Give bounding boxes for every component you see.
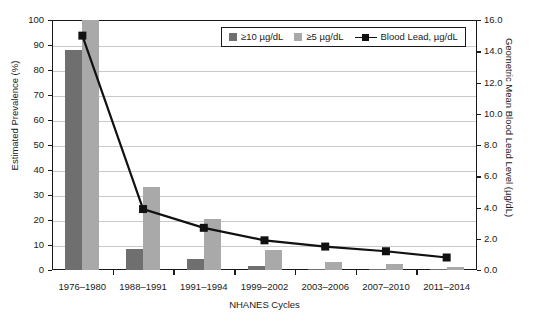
x-axis-tick-label: 2011–2014 xyxy=(416,281,478,292)
legend-label: Blood Lead, µg/dL xyxy=(381,32,458,42)
y-axis-left-tick-label: 30 xyxy=(18,190,44,200)
y-axis-right-tick-label: 6.0 xyxy=(484,171,514,181)
y-axis-right-tick-mark xyxy=(477,51,481,52)
x-axis-tick-label: 1991–1994 xyxy=(173,281,235,292)
chart-legend: ≥10 µg/dL ≥5 µg/dL Blood Lead, µg/dL xyxy=(221,27,466,47)
x-axis-tick-label: 1999–2002 xyxy=(234,281,296,292)
line-data-point-marker xyxy=(139,205,147,213)
y-axis-left-tick-label: 100 xyxy=(18,15,44,25)
x-axis-tick-mark xyxy=(234,270,235,275)
y-axis-right-tick-label: 0.0 xyxy=(484,265,514,275)
line-data-point-marker xyxy=(200,224,208,232)
y-axis-right-tick-label: 12.0 xyxy=(484,78,514,88)
y-axis-right-tick-mark xyxy=(477,239,481,240)
y-axis-left-tick-label: 0 xyxy=(18,265,44,275)
y-axis-left-tick-mark xyxy=(48,195,52,196)
y-axis-left-tick-mark xyxy=(48,95,52,96)
y-axis-left-tick-label: 60 xyxy=(18,115,44,125)
legend-label: ≥10 µg/dL xyxy=(241,32,283,42)
y-axis-right-tick-mark xyxy=(477,270,481,271)
y-axis-right-tick-mark xyxy=(477,20,481,21)
legend-item-ge10: ≥10 µg/dL xyxy=(229,32,283,42)
line-data-point-marker xyxy=(321,243,329,251)
legend-item-ge5: ≥5 µg/dL xyxy=(294,32,343,42)
y-axis-left-tick-label: 20 xyxy=(18,215,44,225)
line-square-marker-icon xyxy=(355,33,377,42)
x-axis-tick-label: 1976–1980 xyxy=(51,281,113,292)
blood-lead-line-series xyxy=(52,20,477,270)
y-axis-right-tick-label: 16.0 xyxy=(484,15,514,25)
y-axis-left-tick-mark xyxy=(48,170,52,171)
y-axis-right-tick-label: 14.0 xyxy=(484,46,514,56)
y-axis-left-tick-mark xyxy=(48,45,52,46)
y-axis-left-tick-label: 80 xyxy=(18,65,44,75)
legend-label: ≥5 µg/dL xyxy=(306,32,343,42)
x-axis-title: NHANES Cycles xyxy=(52,299,477,310)
y-axis-left-tick-mark xyxy=(48,245,52,246)
line-data-point-marker xyxy=(78,32,86,40)
y-axis-left-tick-mark xyxy=(48,70,52,71)
y-axis-right-tick-mark xyxy=(477,176,481,177)
x-axis-tick-mark xyxy=(113,270,114,275)
y-axis-right-tick-label: 8.0 xyxy=(484,140,514,150)
square-swatch-dark-icon xyxy=(229,33,237,41)
y-axis-left-tick-label: 70 xyxy=(18,90,44,100)
y-axis-left-tick-mark xyxy=(48,270,52,271)
chart-container: Estimated Prevalence (%) Geometric Mean … xyxy=(0,0,553,326)
y-axis-left-tick-mark xyxy=(48,20,52,21)
y-axis-left-tick-label: 10 xyxy=(18,240,44,250)
line-data-point-marker xyxy=(382,247,390,255)
y-axis-right-tick-mark xyxy=(477,83,481,84)
y-axis-right-tick-mark xyxy=(477,145,481,146)
x-axis-tick-mark xyxy=(173,270,174,275)
square-swatch-light-icon xyxy=(294,33,302,41)
y-axis-right-tick-label: 2.0 xyxy=(484,234,514,244)
y-axis-right-tick-mark xyxy=(477,114,481,115)
y-axis-left-tick-mark xyxy=(48,120,52,121)
x-axis-tick-mark xyxy=(356,270,357,275)
line-data-point-marker xyxy=(261,236,269,244)
y-axis-right-tick-mark xyxy=(477,208,481,209)
x-axis-tick-mark xyxy=(295,270,296,275)
line-data-point-marker xyxy=(443,254,451,262)
y-axis-left-tick-mark xyxy=(48,220,52,221)
y-axis-left-tick-label: 50 xyxy=(18,140,44,150)
x-axis-tick-label: 2007–2010 xyxy=(355,281,417,292)
y-axis-left-tick-label: 40 xyxy=(18,165,44,175)
x-axis-tick-label: 2003–2006 xyxy=(294,281,356,292)
y-axis-left-tick-label: 90 xyxy=(18,40,44,50)
x-axis-tick-label: 1988–1991 xyxy=(112,281,174,292)
x-axis-tick-mark xyxy=(416,270,417,275)
y-axis-right-tick-label: 4.0 xyxy=(484,203,514,213)
y-axis-left-tick-mark xyxy=(48,145,52,146)
legend-item-blood-lead: Blood Lead, µg/dL xyxy=(355,32,458,42)
y-axis-right-tick-label: 10.0 xyxy=(484,109,514,119)
